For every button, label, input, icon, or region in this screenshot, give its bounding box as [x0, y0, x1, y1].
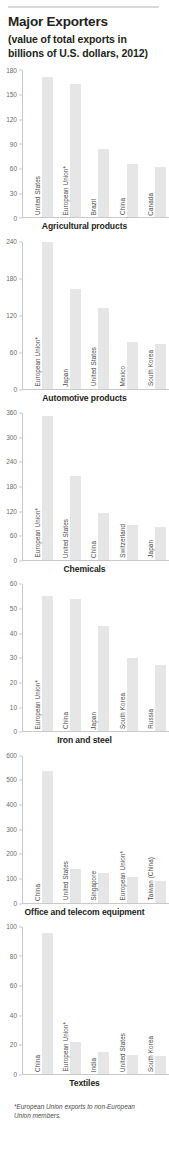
bar-slot: Japan: [57, 242, 85, 389]
bar: [42, 933, 53, 1074]
bar-category-label: Japan: [148, 540, 154, 558]
bar-slot: United States: [29, 70, 57, 217]
bar-group: ChinaEuropean Union*IndiaUnited StatesSo…: [23, 927, 169, 1074]
page-title: Major Exporters: [8, 14, 169, 30]
bar-category-label: European Union*: [35, 680, 41, 729]
bar-category-label: European Union*: [63, 1022, 69, 1071]
y-tick-label: 0: [13, 729, 17, 736]
chart-3: 060120180240300360European Union*United …: [0, 413, 169, 574]
y-tick-mark: [19, 1015, 22, 1016]
y-tick-mark: [19, 986, 22, 987]
bar-category-label: Japan: [63, 369, 69, 387]
y-tick-mark: [19, 1045, 22, 1046]
bar: [127, 658, 138, 732]
y-tick-mark: [19, 462, 22, 463]
bar-slot: China: [57, 584, 85, 731]
bar-slot: United States: [57, 413, 85, 560]
plot-area: 060120180240300360European Union*United …: [22, 413, 169, 561]
y-tick-mark: [19, 584, 22, 585]
bar: [42, 416, 53, 560]
bar: [155, 665, 166, 731]
chart-4: 0102030405060European Union*ChinaJapanSo…: [0, 584, 169, 745]
y-tick-mark: [19, 732, 22, 733]
bar: [155, 344, 166, 389]
y-tick-mark: [19, 956, 22, 957]
y-tick-label: 360: [6, 410, 17, 417]
chart-title: Textiles: [0, 1078, 169, 1088]
bar-slot: China: [114, 70, 142, 217]
y-tick-mark: [19, 389, 22, 390]
bar: [98, 626, 109, 731]
y-tick-mark: [19, 755, 22, 756]
y-tick-mark: [19, 1074, 22, 1075]
bar-category-label: South Korea: [120, 693, 126, 729]
bar: [155, 527, 166, 560]
page-subtitle: (value of total exports in billions of U…: [8, 32, 158, 60]
bar-slot: Japan: [142, 413, 169, 560]
bar-category-label: China: [91, 541, 97, 558]
infographic-root: Major Exporters (value of total exports …: [0, 6, 169, 1121]
x-axis: [22, 1074, 169, 1075]
y-tick-label: 0: [13, 215, 17, 222]
bar-category-label: European Union*: [63, 166, 69, 215]
y-tick-label: 0: [13, 386, 17, 393]
bar: [42, 771, 53, 902]
bar-slot: India: [85, 927, 113, 1074]
bar-category-label: Brazil: [91, 199, 97, 215]
bar: [42, 242, 53, 389]
y-tick-label: 500: [6, 777, 17, 784]
y-tick-label: 20: [10, 1042, 17, 1049]
bar-slot: United States: [85, 242, 113, 389]
bar: [70, 289, 81, 388]
y-tick-mark: [19, 804, 22, 805]
bar-slot: Russia: [142, 584, 169, 731]
y-tick-mark: [19, 241, 22, 242]
y-tick-label: 300: [6, 826, 17, 833]
bar-category-label: Japan: [91, 712, 97, 730]
y-tick-label: 180: [6, 484, 17, 491]
plot-area: 0306090120150180United StatesEuropean Un…: [22, 70, 169, 218]
y-tick-mark: [19, 854, 22, 855]
bar-category-label: India: [91, 1058, 97, 1072]
bar-group: European Union*ChinaJapanSouth KoreaRuss…: [23, 584, 169, 731]
y-tick-label: 80: [10, 953, 17, 960]
y-tick-mark: [19, 412, 22, 413]
y-tick-label: 240: [6, 459, 17, 466]
bar-slot: Japan: [85, 584, 113, 731]
y-tick-label: 0: [13, 900, 17, 907]
bar: [70, 1042, 81, 1074]
y-tick-label: 60: [10, 166, 17, 173]
bar-slot: China: [29, 927, 57, 1074]
bar-category-label: European Union*: [35, 508, 41, 557]
bar: [98, 513, 109, 560]
y-tick-label: 60: [10, 581, 17, 588]
y-tick-label: 60: [10, 349, 17, 356]
footnote: *European Union exports to non-European …: [14, 1102, 144, 1121]
y-tick-mark: [19, 707, 22, 708]
chart-6: 020406080100ChinaEuropean Union*IndiaUni…: [0, 927, 169, 1088]
y-tick-label: 0: [13, 1072, 17, 1079]
y-tick-mark: [19, 70, 22, 71]
y-tick-label: 150: [6, 92, 17, 99]
bar: [127, 164, 138, 217]
bar-slot: European Union*: [57, 70, 85, 217]
bar-slot: European Union*: [114, 756, 142, 903]
bar: [70, 476, 81, 560]
chart-title: Agricultural products: [0, 221, 169, 231]
bar-slot: United States: [57, 756, 85, 903]
bar: [70, 869, 81, 903]
top-divider: [8, 6, 159, 8]
y-tick-mark: [19, 829, 22, 830]
plot-area: 0102030405060European Union*ChinaJapanSo…: [22, 584, 169, 732]
bar: [98, 873, 109, 902]
x-axis: [22, 217, 169, 218]
bar: [70, 84, 81, 217]
y-tick-mark: [19, 168, 22, 169]
chart-title: Automotive products: [0, 393, 169, 403]
bar-slot: United States: [114, 927, 142, 1074]
y-tick-mark: [19, 352, 22, 353]
bar-slot: Taiwan (China): [142, 756, 169, 903]
bar-slot: European Union*: [29, 413, 57, 560]
y-tick-label: 40: [10, 1012, 17, 1019]
y-tick-mark: [19, 608, 22, 609]
